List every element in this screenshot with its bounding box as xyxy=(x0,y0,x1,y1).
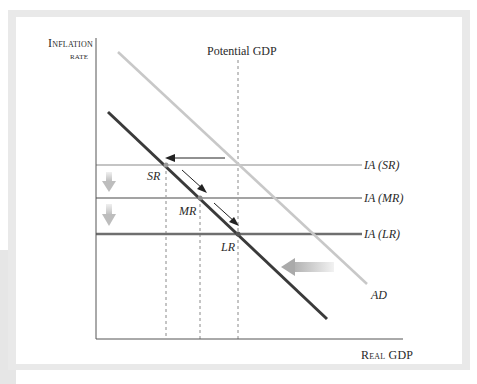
diagonal-arrow-icon xyxy=(182,170,207,193)
lr-point-label: LR xyxy=(221,241,235,253)
ia-mr-label: IA (MR) xyxy=(364,192,403,204)
ia-lr-label: IA (LR) xyxy=(364,228,400,240)
ia-sr-label: IA (SR) xyxy=(364,159,399,171)
left-arrow-icon xyxy=(165,154,225,162)
down-arrow-icon xyxy=(102,172,116,192)
mr-point xyxy=(198,196,203,201)
mr-point-label: MR xyxy=(179,205,196,217)
ad-shift-arrow-icon xyxy=(281,258,334,276)
sr-point-label: SR xyxy=(147,170,160,182)
ad-curve-label: AD xyxy=(371,289,387,301)
potential-gdp-label: Potential GDP xyxy=(207,45,277,57)
lr-point xyxy=(236,232,241,237)
sr-point xyxy=(164,163,169,168)
ad-old-curve xyxy=(118,52,367,284)
down-arrow-icon xyxy=(102,204,116,226)
x-axis-label: Real GDP xyxy=(361,349,413,361)
y-axis-label-line1: Inflation xyxy=(48,37,93,49)
y-axis-label-line2: rate xyxy=(70,51,88,61)
